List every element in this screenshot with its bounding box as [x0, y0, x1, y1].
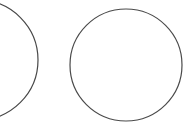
- image-canvas: [0, 0, 189, 129]
- figure-svg: [0, 0, 189, 129]
